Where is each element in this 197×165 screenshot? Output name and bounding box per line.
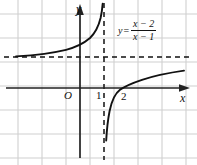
equation-equals-sign: = — [123, 26, 129, 36]
graph-figure: y x O 1 2 y = x − 2 x − 1 — [0, 0, 197, 165]
equation-numerator: x − 2 — [131, 19, 156, 30]
equation-fraction: x − 2 x − 1 — [131, 19, 156, 42]
x-axis-label: x — [180, 92, 185, 104]
curve-right-branch — [106, 71, 184, 141]
origin-label: O — [64, 90, 72, 101]
equation-lhs: y — [118, 26, 122, 36]
y-axis-label: y — [76, 3, 81, 15]
x-tick-label-2: 2 — [121, 91, 127, 102]
graph-canvas — [0, 0, 197, 165]
equation-annotation: y = x − 2 x − 1 — [118, 19, 156, 42]
equation-denominator: x − 1 — [131, 31, 156, 42]
x-tick-label-1: 1 — [96, 90, 102, 101]
